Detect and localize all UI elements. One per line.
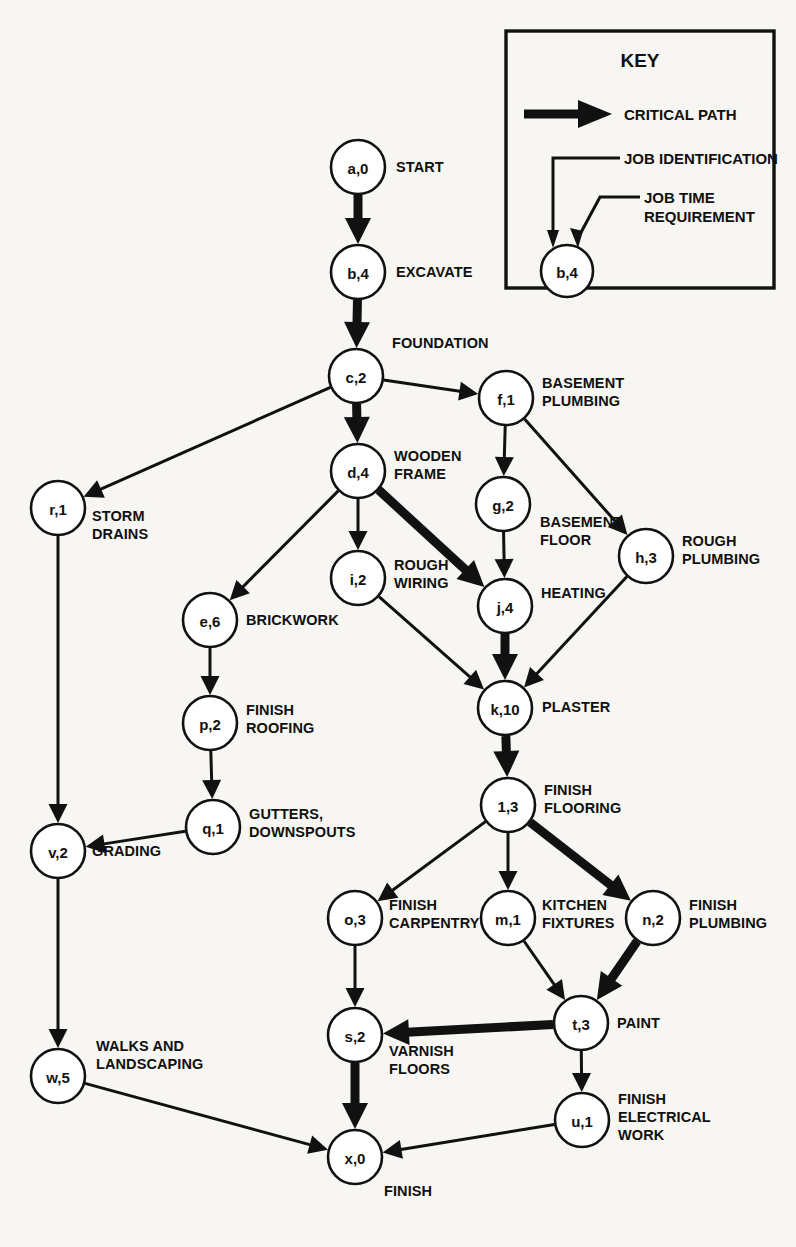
job-label-r: STORM [92,508,145,524]
node-f[interactable]: f,1 [479,371,533,425]
node-n[interactable]: n,2 [626,891,680,945]
edge-e-p [201,648,220,695]
arrowhead-icon [345,218,371,244]
edge-t-s [383,1019,553,1045]
node-t[interactable]: t,3 [554,996,608,1050]
arrowhead-icon [383,1140,403,1159]
node-label-j: j,4 [496,599,514,616]
edge-c-d [344,404,370,443]
node-label-w: w,5 [45,1069,70,1086]
job-label-i: ROUGH [394,557,448,573]
node-u[interactable]: u,1 [555,1093,609,1147]
edge-s-x [342,1063,368,1129]
edge-d-i [349,499,368,550]
job-label-q: DOWNSPOUTS [249,824,356,840]
node-label-x: x,0 [345,1150,366,1167]
job-label-p: FINISH [246,702,294,718]
key-sample-node-label: b,4 [556,264,578,281]
arrowhead-icon [458,382,478,401]
node-h[interactable]: h,3 [619,529,673,583]
job-label-e: BRICKWORK [246,612,339,628]
node-q[interactable]: q,1 [186,800,240,854]
node-w[interactable]: w,5 [31,1049,85,1103]
edge-g-j [495,532,514,578]
node-label-g: g,2 [492,497,514,514]
job-label-l: FINISH [544,782,592,798]
arrowhead-icon [342,1103,368,1129]
node-v[interactable]: v,2 [31,824,85,878]
node-b[interactable]: b,4 [331,245,385,299]
edge-l-o [378,822,486,902]
job-label-g: FLOOR [540,532,592,548]
node-p[interactable]: p,2 [183,696,237,750]
job-label-x: FINISH [384,1183,432,1199]
node-label-i: i,2 [350,571,367,588]
job-label-d: WOODEN [394,448,461,464]
job-label-v: GRADING [92,843,161,859]
key-critical-path-label: CRITICAL PATH [624,106,737,123]
key-job-time-label-line2: REQUIREMENT [644,208,755,225]
edge-d-e [230,491,339,600]
node-label-u: u,1 [571,1113,593,1130]
node-label-p: p,2 [199,716,221,733]
job-label-f: PLUMBING [542,393,620,409]
network-diagram: a,0STARTb,4EXCAVATEc,2FOUNDATIONd,4WOODE… [0,0,796,1247]
edge-v-w [49,879,68,1048]
job-label-u: ELECTRICAL [618,1109,711,1125]
job-label-s: VARNISH [389,1043,454,1059]
edge-line [211,751,212,782]
key-legend: KEY CRITICAL PATH JOB IDENTIFICATION JOB… [506,31,778,297]
job-label-s: FLOORS [389,1061,450,1077]
node-e[interactable]: e,6 [183,593,237,647]
arrowhead-icon [307,1135,328,1153]
edge-line [391,822,485,892]
node-k[interactable]: k,10 [478,681,532,735]
key-job-identification-label: JOB IDENTIFICATION [624,150,778,167]
edge-line [530,822,612,886]
arrowhead-icon [495,559,514,578]
node-label-n: n,2 [642,911,664,928]
edge-c-r [84,387,331,497]
edge-line [384,380,462,391]
key-job-time-label-line1: JOB TIME [644,189,715,206]
node-d[interactable]: d,4 [331,444,385,498]
job-label-a: START [396,159,444,175]
arrowhead-icon [499,871,518,890]
job-label-q: GUTTERS, [249,806,323,822]
node-label-a: a,0 [348,160,369,177]
edge-line [524,941,555,986]
edge-j-k [492,634,518,680]
node-j[interactable]: j,4 [478,579,532,633]
node-l[interactable]: 1,3 [481,778,535,832]
edge-line [242,491,339,588]
edge-o-s [346,946,365,1007]
node-x[interactable]: x,0 [328,1130,382,1184]
arrowhead-icon [349,531,368,550]
node-o[interactable]: o,3 [328,891,382,945]
edge-line [504,426,505,459]
node-label-q: q,1 [202,820,224,837]
node-label-m: m,1 [495,911,521,928]
job-label-m: KITCHEN [542,897,607,913]
arrowhead-icon [344,322,370,348]
node-m[interactable]: m,1 [481,891,535,945]
edge-line [525,419,617,522]
job-label-o: CARPENTRY [389,915,480,931]
edge-line [399,1125,554,1150]
node-a[interactable]: a,0 [331,140,385,194]
node-g[interactable]: g,2 [476,477,530,531]
arrowhead-icon [202,780,221,799]
edge-line [379,597,471,679]
edge-p-q [202,751,221,799]
node-c[interactable]: c,2 [329,349,383,403]
edge-i-k [379,597,484,690]
node-i[interactable]: i,2 [331,551,385,605]
arrowhead-icon [492,654,518,680]
edge-line [85,1083,312,1145]
key-job-time-leader-icon [570,197,640,248]
node-r[interactable]: r,1 [31,481,85,535]
node-label-d: d,4 [347,464,369,481]
job-label-n: FINISH [689,897,737,913]
job-label-r: DRAINS [92,526,148,542]
node-s[interactable]: s,2 [328,1008,382,1062]
